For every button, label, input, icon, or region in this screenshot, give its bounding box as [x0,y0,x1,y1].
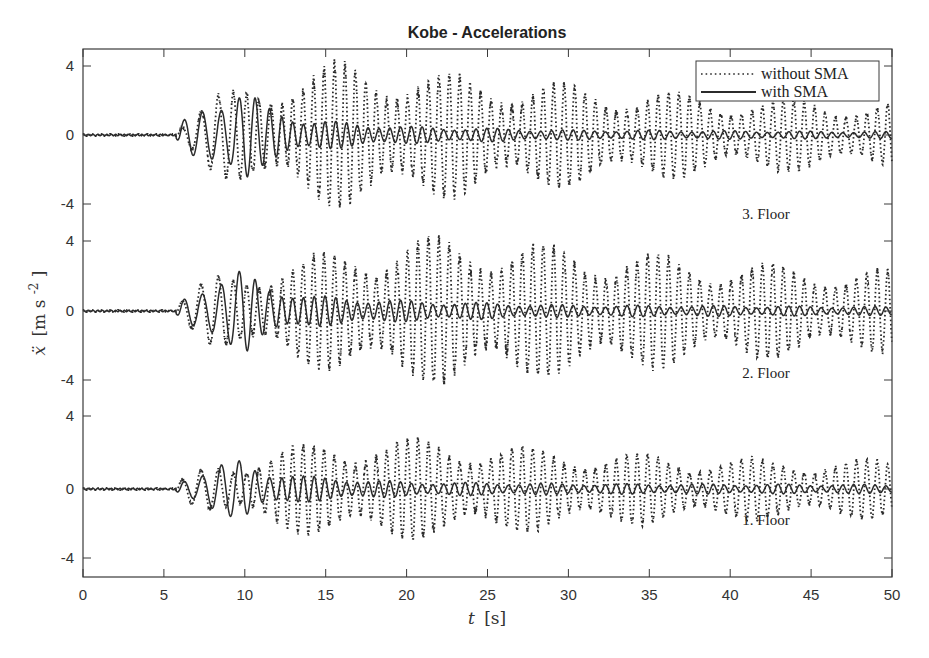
y-tick-label: -4 [61,549,74,566]
legend-label-without-sma: without SMA [761,65,849,82]
y-tick-label: 4 [66,407,74,424]
y-tick-label: 0 [66,302,74,319]
subplot-floor-2 [83,235,892,386]
y-tick-label: -4 [61,195,74,212]
x-tick-label: 10 [236,586,253,603]
floor-label-3: 3. Floor [742,206,790,222]
x-tick-label: 35 [641,586,658,603]
x-tick-label: 20 [398,586,415,603]
chart: Kobe - Accelerations 0510152025303540455… [0,0,929,658]
x-tick-label: 25 [479,586,496,603]
legend: without SMA with SMA [696,61,879,101]
x-tick-label: 30 [560,586,577,603]
y-axis-label-symbol: ẍ [29,346,49,356]
x-tick-label: 5 [160,586,168,603]
floor-label-1: 1. Floor [742,512,790,528]
x-tick-label: 0 [79,586,87,603]
x-axis-label-symbol: t [468,608,475,628]
y-tick-label: -4 [61,371,74,388]
y-axis-label-unit: [m s [29,300,49,337]
x-tick-label: 40 [722,586,739,603]
y-tick-label: 4 [66,232,74,249]
x-tick-label: 15 [317,586,334,603]
y-axis-label-exponent: -2 [27,283,41,295]
x-axis-label: t [s] [468,608,506,628]
y-tick-label: 0 [66,126,74,143]
x-tick-label: 50 [884,586,901,603]
chart-title: Kobe - Accelerations [408,24,567,41]
trace-without-sma [83,235,892,386]
y-axis-ticks: 40-440-440-4 [61,57,892,566]
y-axis-label-close: ] [29,270,49,277]
x-tick-label: 45 [803,586,820,603]
y-tick-label: 0 [66,480,74,497]
signal-traces [83,59,892,541]
y-axis-label: ẍ [m s -2 ] [22,270,49,355]
y-tick-label: 4 [66,57,74,74]
floor-label-2: 2. Floor [742,365,790,381]
x-axis-label-unit: [s] [484,608,506,628]
legend-label-with-sma: with SMA [761,83,829,100]
